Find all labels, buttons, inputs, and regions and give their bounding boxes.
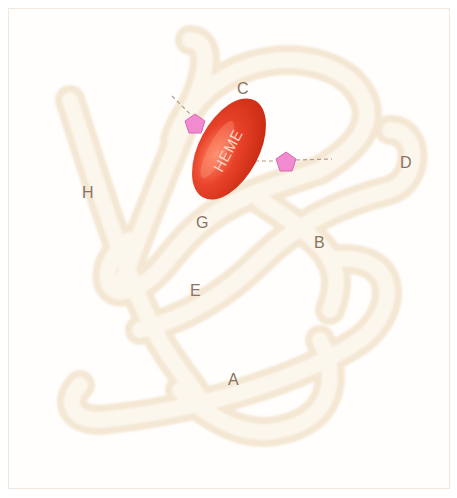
backbone-tube — [70, 40, 413, 432]
distal-histidine-icon — [276, 152, 296, 171]
helix-label-c: C — [237, 81, 249, 97]
helix-label-d: D — [400, 155, 412, 171]
helix-label-h: H — [82, 185, 94, 201]
protein-ribbon-diagram — [0, 0, 457, 498]
helix-label-g: G — [196, 215, 208, 231]
helix-label-a: A — [228, 372, 239, 388]
helix-label-e: E — [190, 283, 201, 299]
helix-label-b: B — [314, 235, 325, 251]
